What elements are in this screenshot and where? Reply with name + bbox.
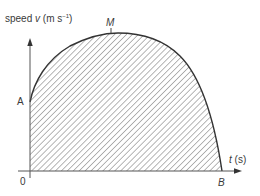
graph-canvas [0, 0, 260, 196]
point-m-label: M [106, 18, 114, 28]
x-axis-label: t (s) [229, 155, 246, 165]
y-axis-label: speed v (m s−1) [5, 13, 72, 24]
point-b-label: B [218, 178, 225, 188]
point-a-label: A [17, 97, 24, 107]
origin-label: 0 [20, 177, 26, 187]
x-axis-arrow-icon [234, 168, 242, 173]
y-axis-arrow-icon [27, 38, 32, 46]
speed-time-diagram: speed v (m s−1) M A B 0 t (s) [0, 0, 260, 196]
